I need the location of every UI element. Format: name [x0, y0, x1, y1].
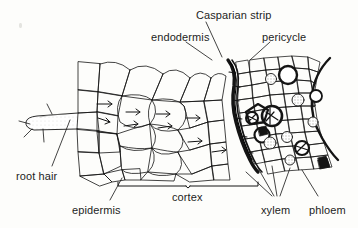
root-cross-section-diagram: Casparian strip endodermis pericycle roo… [0, 0, 358, 228]
leader-endodermis [186, 42, 212, 60]
label-epidermis: epidermis [72, 204, 121, 216]
leader-pericycle [250, 42, 270, 60]
label-cortex: cortex [172, 191, 203, 203]
label-phloem: phloem [309, 204, 346, 216]
label-casparian-strip: Casparian strip [196, 9, 271, 21]
label-xylem: xylem [261, 204, 290, 216]
leader-phloem [302, 170, 318, 196]
label-root-hair: root hair [16, 170, 57, 182]
vascular-cylinder [236, 56, 338, 174]
label-pericycle: pericycle [262, 31, 306, 43]
leader-xylem [246, 166, 290, 196]
epidermis-cells [77, 62, 141, 186]
cortex-bracket [118, 182, 258, 188]
cortex-cells [97, 62, 230, 182]
phloem-dark-cell [318, 158, 330, 169]
label-endodermis: endodermis [151, 31, 209, 43]
